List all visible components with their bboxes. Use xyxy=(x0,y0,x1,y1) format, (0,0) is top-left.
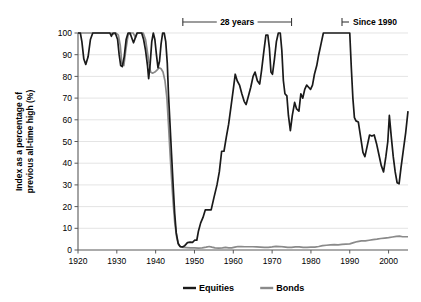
y-axis-title-line: previous all-time high (%) xyxy=(25,90,35,194)
y-tick-label: 0 xyxy=(67,245,72,255)
y-tick-label: 40 xyxy=(63,158,73,168)
annotation-label: 28 years xyxy=(220,17,254,27)
y-tick-label: 90 xyxy=(63,50,73,60)
x-tick-label: 2000 xyxy=(379,256,398,266)
y-tick-label: 20 xyxy=(63,202,73,212)
x-tick-label: 1980 xyxy=(301,256,320,266)
line-chart: 0102030405060708090100 19201930194019501… xyxy=(0,0,421,302)
x-tick-label: 1960 xyxy=(224,256,243,266)
x-tick-label: 1990 xyxy=(340,256,359,266)
y-tick-label: 80 xyxy=(63,72,73,82)
y-axis-title: Index as a percentage ofprevious all-tim… xyxy=(14,90,35,194)
y-axis-title-line: Index as a percentage of xyxy=(14,92,24,191)
chart-figure: 0102030405060708090100 19201930194019501… xyxy=(0,0,421,302)
y-tick-label: 10 xyxy=(63,223,73,233)
y-tick-label: 30 xyxy=(63,180,73,190)
y-tick-label: 60 xyxy=(63,115,73,125)
y-tick-label: 70 xyxy=(63,93,73,103)
y-tick-label: 50 xyxy=(63,137,73,147)
x-tick-label: 1930 xyxy=(107,256,126,266)
y-tick-label: 100 xyxy=(58,28,72,38)
legend-label-bonds: Bonds xyxy=(276,283,304,293)
x-tick-label: 1950 xyxy=(185,256,204,266)
annotation-label: Since 1990 xyxy=(353,17,397,27)
legend-label-equities: Equities xyxy=(199,283,234,293)
x-tick-label: 1940 xyxy=(146,256,165,266)
x-tick-label: 1970 xyxy=(263,256,282,266)
x-tick-label: 1920 xyxy=(69,256,88,266)
